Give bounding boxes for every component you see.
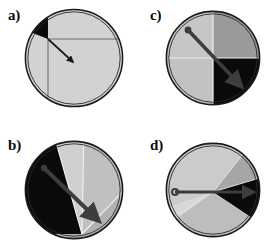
panel-c-svg [163,8,263,108]
panel-c-label: c) [150,8,161,23]
panel-d: d) [137,126,273,252]
panel-d-sectors [153,134,273,250]
panel-b-svg [22,138,126,242]
panel-a-label: a) [8,8,20,23]
panel-a: a) [0,0,137,126]
panel-c-disc [163,8,263,108]
panel-c-arrow-tail-dot [185,27,192,34]
panel-b-sectors [12,128,136,248]
panel-b-disc [22,138,126,242]
panel-b-arrow-tail-dot [41,165,47,171]
figure-grid: a) [0,0,273,252]
panel-b: b) [0,126,137,252]
panel-a-disc [22,6,126,110]
panel-a-svg [22,6,126,110]
panel-c-sectors [163,8,263,108]
panel-d-label: d) [150,138,163,153]
panel-c-quadrant-lower-left [163,58,213,108]
panel-a-sectors [2,0,125,109]
panel-c-quadrant-upper-right [213,8,263,58]
panel-d-svg [163,140,263,240]
panel-b-label: b) [8,138,21,153]
panel-c: c) [137,0,273,126]
panel-d-disc [163,140,263,240]
